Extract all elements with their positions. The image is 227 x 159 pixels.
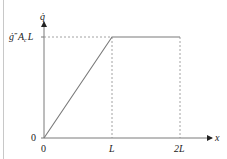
plot: q̇ x ġ‴AcL 0 0 L 2L	[0, 0, 227, 159]
x-tick-label-0: 0	[41, 143, 46, 154]
y-tick-label-max: ġ‴AcL	[9, 31, 34, 43]
y-axis-label: q̇	[40, 11, 45, 22]
x-tick-label-2L: 2L	[174, 143, 185, 154]
x-axis-label: x	[214, 132, 220, 143]
y-tick-label-zero: 0	[31, 132, 36, 143]
x-tick-label-L: L	[108, 143, 115, 154]
